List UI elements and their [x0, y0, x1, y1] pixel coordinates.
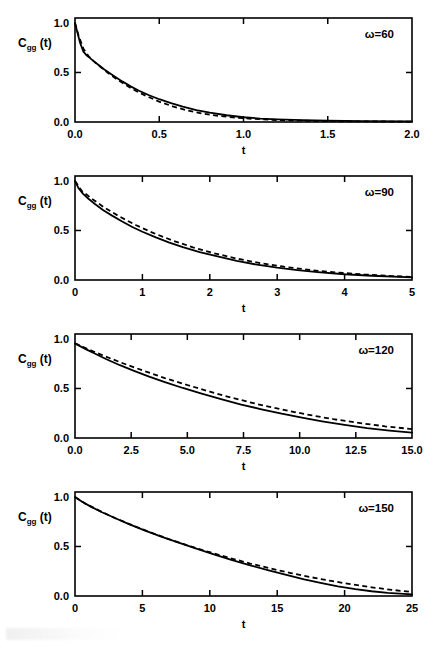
plot-frame: [75, 176, 412, 280]
plot-frame: [75, 18, 412, 122]
y-axis-tick-label: 1.0: [54, 175, 69, 187]
x-axis-tick-label: 0.0: [67, 444, 82, 456]
x-axis-tick-label: 1.5: [320, 128, 335, 140]
y-axis-tick-label: 1.0: [54, 333, 69, 345]
y-axis-tick-label: 0.5: [54, 540, 69, 552]
y-axis-tick-label: 0.0: [54, 590, 69, 602]
x-axis-tick-label: 5.0: [180, 444, 195, 456]
x-axis-tick-label: 5: [409, 286, 415, 298]
x-axis-tick-label: 15.0: [401, 444, 422, 456]
x-axis-tick-label: 0: [72, 602, 78, 614]
plot-panel-omega-60: Cgg (t)0.00.51.01.52.00.00.51.0tω=60: [0, 0, 440, 158]
x-axis-tick-label: 1: [139, 286, 145, 298]
y-axis-tick-label: 0.5: [54, 66, 69, 78]
y-axis-tick-label: 0.5: [54, 382, 69, 394]
plot-panel-omega-150: Cgg (t)05101520250.00.51.0tω=150: [0, 474, 440, 632]
data-curve-solid: [75, 181, 412, 277]
x-axis-title: t: [242, 460, 246, 472]
y-axis-label: Cgg (t): [18, 194, 52, 210]
y-axis-label: Cgg (t): [18, 352, 52, 368]
data-curve-dashed: [75, 23, 412, 122]
x-axis-title: t: [242, 618, 246, 630]
plot-panel-omega-120: Cgg (t)0.02.55.07.510.012.515.00.00.51.0…: [0, 316, 440, 474]
omega-annotation: ω=150: [358, 502, 394, 514]
x-axis-tick-label: 1.0: [236, 128, 251, 140]
data-curve-solid: [75, 343, 412, 432]
x-axis-tick-label: 2.0: [404, 128, 419, 140]
x-axis-tick-label: 2: [207, 286, 213, 298]
scan-artifact: [6, 628, 126, 640]
x-axis-tick-label: 0.0: [67, 128, 82, 140]
figure-decay-correlation-panels: Cgg (t)0.00.51.01.52.00.00.51.0tω=60 Cgg…: [0, 0, 440, 653]
x-axis-tick-label: 0.5: [152, 128, 167, 140]
y-axis-tick-label: 0.0: [54, 274, 69, 286]
x-axis-tick-label: 5: [139, 602, 145, 614]
x-axis-title: t: [242, 144, 246, 156]
plot-panel-omega-90: Cgg (t)0123450.00.51.0tω=90: [0, 158, 440, 316]
x-axis-tick-label: 25: [406, 602, 418, 614]
x-axis-title: t: [242, 302, 246, 314]
omega-annotation: ω=60: [365, 28, 394, 40]
x-axis-tick-label: 7.5: [236, 444, 251, 456]
y-axis-tick-label: 0.0: [54, 432, 69, 444]
x-axis-tick-label: 15: [271, 602, 283, 614]
x-axis-tick-label: 4: [342, 286, 349, 298]
x-axis-tick-label: 2.5: [124, 444, 139, 456]
omega-annotation: ω=90: [365, 186, 394, 198]
x-axis-tick-label: 3: [274, 286, 280, 298]
x-axis-tick-label: 10: [204, 602, 216, 614]
y-axis-tick-label: 1.0: [54, 17, 69, 29]
omega-annotation: ω=120: [358, 344, 394, 356]
y-axis-label: Cgg (t): [18, 36, 52, 52]
y-axis-tick-label: 0.5: [54, 224, 69, 236]
y-axis-label: Cgg (t): [18, 510, 52, 526]
x-axis-tick-label: 0: [72, 286, 78, 298]
x-axis-tick-label: 20: [338, 602, 350, 614]
y-axis-tick-label: 0.0: [54, 116, 69, 128]
data-curve-solid: [75, 23, 412, 121]
x-axis-tick-label: 10.0: [289, 444, 310, 456]
data-curve-dashed: [75, 343, 412, 429]
y-axis-tick-label: 1.0: [54, 491, 69, 503]
x-axis-tick-label: 12.5: [345, 444, 366, 456]
